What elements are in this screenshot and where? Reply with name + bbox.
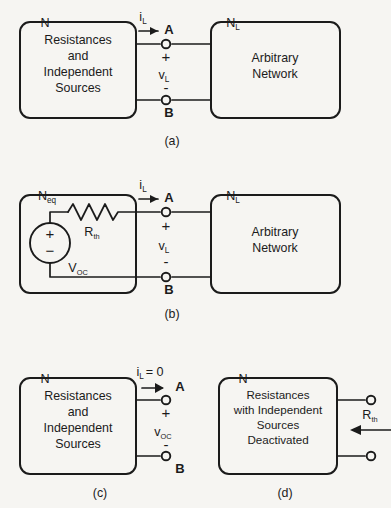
panel-b-load-line-1: Arbitrary — [252, 225, 300, 239]
panel-b-load-node-label: NL — [226, 189, 240, 205]
panel-b: Neq + − VOC Rth NL Arbitrary Network A — [20, 178, 340, 321]
panel-a-current-arrow: iL — [139, 10, 158, 35]
panel-c-current-label: iL= 0 — [136, 365, 163, 381]
panel-c-source-line-4: Sources — [55, 437, 100, 451]
panel-a-plus-sign: + — [162, 48, 171, 65]
panel-d-resistance-arrow: Rth — [350, 408, 391, 435]
panel-c-terminal-b-label: B — [175, 461, 184, 476]
panel-a-load-box: NL Arbitrary Network — [211, 16, 340, 118]
panel-b-lead-upper — [50, 212, 68, 223]
panel-d-caption: (d) — [277, 486, 292, 500]
panel-a-current-label: iL — [139, 10, 147, 26]
panel-a: N Resistances and Independent Sources NL… — [20, 10, 340, 148]
panel-b-minus-sign: - — [164, 253, 169, 270]
panel-c-minus-sign: - — [164, 436, 169, 453]
panel-c-terminal-a — [162, 396, 171, 405]
panel-d-source-line-2: with Independent — [233, 403, 323, 416]
panel-b-terminal-b-label: B — [164, 282, 173, 297]
panel-a-load-line-1: Arbitrary — [252, 51, 300, 65]
panel-d-source-box: N Resistances with Independent Sources D… — [219, 372, 337, 474]
panel-b-source-plus: + — [46, 225, 55, 242]
panel-c-terminal-a-label: A — [175, 379, 185, 394]
panel-b-terminal-a — [162, 208, 171, 217]
panel-c-caption: (c) — [93, 486, 107, 500]
panel-a-load-node-label: NL — [226, 16, 240, 32]
panel-a-caption: (a) — [164, 134, 179, 148]
panel-b-voltage-source: + − VOC — [30, 223, 88, 277]
panel-b-terminal-a-label: A — [164, 190, 174, 205]
panel-a-terminal-a-label: A — [164, 22, 174, 37]
panel-a-minus-sign: - — [164, 79, 169, 96]
panel-d-terminal-bottom — [367, 452, 376, 461]
panel-d: N Resistances with Independent Sources D… — [219, 372, 391, 500]
panel-b-resistor-label: Rth — [84, 225, 99, 241]
panel-d-source-line-1: Resistances — [246, 388, 309, 401]
panel-c-current-arrow: iL= 0 — [136, 365, 164, 393]
panel-a-source-line-2: and — [68, 49, 89, 63]
panel-a-load-line-2: Network — [252, 67, 298, 81]
panel-b-current-label: iL — [139, 178, 147, 194]
panel-b-terminal-b — [162, 273, 171, 282]
panel-b-source-node-label: Neq — [38, 189, 57, 205]
circuit-diagram-svg: N Resistances and Independent Sources NL… — [0, 0, 391, 508]
panel-c-source-line-2: and — [68, 405, 89, 419]
panel-a-terminal-b-label: B — [164, 105, 173, 120]
panel-d-source-node-label: N — [238, 372, 247, 386]
panel-b-lead-lower — [50, 263, 136, 277]
panel-d-source-line-4: Deactivated — [247, 433, 308, 446]
panel-a-source-line-4: Sources — [55, 81, 100, 95]
panel-c: N Resistances and Independent Sources A … — [20, 365, 185, 500]
panel-a-source-line-3: Independent — [44, 65, 113, 79]
panel-a-source-box: N Resistances and Independent Sources — [20, 16, 136, 118]
panel-a-source-node-label: N — [40, 16, 49, 30]
figure-canvas: N Resistances and Independent Sources NL… — [0, 0, 391, 508]
panel-a-source-line-1: Resistances — [44, 33, 112, 47]
panel-b-resistor — [68, 204, 136, 220]
panel-c-source-node-label: N — [40, 372, 49, 386]
panel-c-plus-sign: + — [162, 404, 171, 421]
panel-d-source-line-3: Sources — [257, 418, 300, 431]
panel-a-terminal-b — [162, 96, 171, 105]
panel-b-current-arrow: iL — [139, 178, 158, 203]
panel-b-source-minus: − — [46, 242, 55, 259]
panel-d-terminal-top — [367, 396, 376, 405]
panel-a-terminal-a — [162, 40, 171, 49]
panel-b-plus-sign: + — [162, 217, 171, 234]
panel-b-source-label: VOC — [68, 261, 88, 277]
panel-c-source-line-1: Resistances — [44, 389, 112, 403]
panel-c-source-line-3: Independent — [44, 421, 113, 435]
panel-b-load-box: NL Arbitrary Network — [211, 189, 340, 293]
panel-d-resistance-label: Rth — [362, 408, 377, 424]
panel-b-caption: (b) — [164, 307, 179, 321]
panel-c-source-box: N Resistances and Independent Sources — [20, 372, 136, 474]
panel-b-load-line-2: Network — [252, 241, 298, 255]
